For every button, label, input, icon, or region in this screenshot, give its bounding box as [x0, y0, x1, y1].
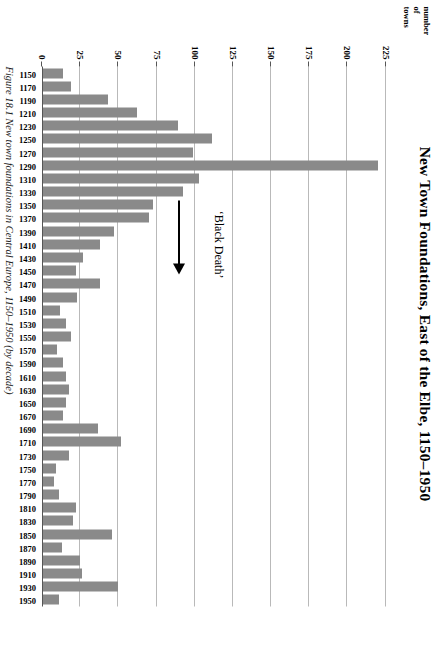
bar-slot: 1870	[42, 540, 404, 553]
bar	[42, 463, 56, 473]
bar-slot: 1330	[42, 185, 404, 198]
bar-slot: 1510	[42, 303, 404, 316]
bar-slot: 1930	[42, 580, 404, 593]
bar	[42, 357, 63, 367]
bar-slot: 1730	[42, 448, 404, 461]
bar	[42, 489, 59, 499]
bar-slot: 1890	[42, 553, 404, 566]
bar-slot: 1770	[42, 474, 404, 487]
value-axis-tick-label: 0	[37, 55, 47, 60]
bar	[42, 436, 121, 446]
bar	[42, 160, 378, 170]
category-axis-label: 1610	[19, 372, 36, 382]
category-axis-label: 1570	[19, 346, 36, 356]
bar-slot: 1910	[42, 567, 404, 580]
bar-slot: 1710	[42, 435, 404, 448]
figure-canvas: New Town Foundations, East of the Elbe, …	[0, 0, 448, 647]
category-axis-label: 1910	[19, 570, 36, 580]
value-axis-title-line-1: number	[422, 6, 432, 35]
category-axis-label: 1770	[19, 477, 36, 487]
bar-slot: 1190	[42, 92, 404, 105]
category-axis-label: 1790	[19, 491, 36, 501]
bar	[42, 515, 73, 525]
bar-slot: 1850	[42, 527, 404, 540]
bar	[42, 68, 63, 78]
bar	[42, 476, 54, 486]
bar	[42, 147, 193, 157]
bar-slot: 1530	[42, 316, 404, 329]
category-axis-label: 1930	[19, 583, 36, 593]
category-axis-label: 1250	[19, 135, 36, 145]
bar	[42, 581, 118, 591]
category-axis-label: 1430	[19, 253, 36, 263]
value-axis-tick	[270, 61, 271, 66]
bar	[42, 94, 108, 104]
bar-slot: 1670	[42, 408, 404, 421]
bar	[42, 292, 77, 302]
category-axis-label: 1490	[19, 293, 36, 303]
category-axis-label: 1390	[19, 227, 36, 237]
value-axis-tick-label: 125	[228, 46, 238, 60]
category-axis-label: 1650	[19, 398, 36, 408]
bar-slot: 1210	[42, 106, 404, 119]
bar	[42, 226, 114, 236]
bar-slot: 1290	[42, 158, 404, 171]
value-axis-title-line-2: of	[412, 6, 422, 35]
bar	[42, 252, 83, 262]
category-axis-label: 1150	[19, 69, 36, 79]
bar-slot: 1390	[42, 224, 404, 237]
bar	[42, 555, 80, 565]
category-axis-label: 1750	[19, 464, 36, 474]
bar-chart-figure: New Town Foundations, East of the Elbe, …	[0, 0, 448, 647]
bar	[42, 423, 99, 433]
bar-slot: 1370	[42, 211, 404, 224]
bar-slot: 1230	[42, 119, 404, 132]
bar	[42, 305, 60, 315]
category-axis-label: 1530	[19, 319, 36, 329]
bar-slot: 1790	[42, 488, 404, 501]
category-axis-label: 1550	[19, 333, 36, 343]
category-axis-label: 1890	[19, 556, 36, 566]
bar-slot: 1150	[42, 66, 404, 79]
value-axis-tick-label: 100	[190, 46, 200, 60]
value-axis-title-line-3: towns	[402, 6, 412, 35]
bar-slot: 1590	[42, 356, 404, 369]
category-axis-label: 1510	[19, 306, 36, 316]
bar	[42, 265, 76, 275]
category-axis-label: 1230	[19, 122, 36, 132]
category-axis-label: 1870	[19, 543, 36, 553]
category-axis-label: 1190	[19, 96, 36, 106]
bar	[42, 371, 66, 381]
bar	[42, 410, 63, 420]
category-axis-label: 1670	[19, 412, 36, 422]
bar	[42, 81, 71, 91]
value-axis-tick	[308, 61, 309, 66]
category-axis-label: 1370	[19, 214, 36, 224]
category-axis-label: 1350	[19, 201, 36, 211]
bar-slot: 1250	[42, 132, 404, 145]
category-axis-label: 1330	[19, 188, 36, 198]
category-axis-label: 1690	[19, 425, 36, 435]
category-axis-label: 1950	[19, 596, 36, 606]
value-axis-tick-label: 175	[304, 46, 314, 60]
bar-slot: 1550	[42, 329, 404, 342]
bar-slot: 1650	[42, 395, 404, 408]
bar-slot: 1630	[42, 382, 404, 395]
figure-caption: Figure 18.1 New town foundations in Cent…	[4, 66, 15, 394]
bar-slot: 1610	[42, 369, 404, 382]
bar	[42, 278, 100, 288]
value-axis-tick-label: 200	[343, 46, 353, 60]
category-axis-label: 1290	[19, 161, 36, 171]
bar	[42, 199, 154, 209]
value-axis-tick	[232, 61, 233, 66]
value-axis-tick	[79, 61, 80, 66]
value-axis-tick	[41, 61, 42, 66]
bar-slot: 1490	[42, 290, 404, 303]
bar-slot: 1830	[42, 514, 404, 527]
value-axis-tick-label: 225	[381, 46, 391, 60]
bar	[42, 120, 178, 130]
bar	[42, 107, 137, 117]
category-axis-label: 1710	[19, 438, 36, 448]
bar-slot: 1310	[42, 171, 404, 184]
bar	[42, 173, 199, 183]
